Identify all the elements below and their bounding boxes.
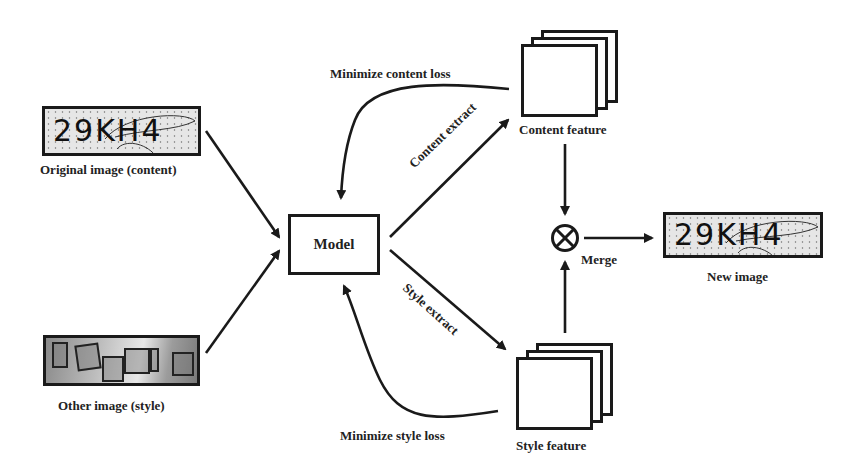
arrow-style-to-model [206, 251, 279, 353]
minimize-style-loss-label: Minimize style loss [340, 428, 445, 444]
arrow-original-to-model [206, 131, 279, 237]
minimize-content-loss-label: Minimize content loss [330, 66, 451, 82]
